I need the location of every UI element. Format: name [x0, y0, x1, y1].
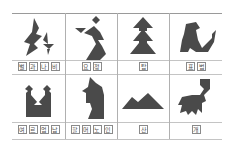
label-syllable: 르 — [29, 125, 38, 134]
label-syllable: 나 — [40, 62, 49, 71]
tangram-dog-icon — [170, 75, 222, 122]
label-syllable: 표 — [186, 62, 195, 71]
label-syllable: 남 — [51, 125, 60, 134]
label-syllable: 탑 — [139, 62, 148, 71]
label-syllable: 요 — [82, 62, 91, 71]
label-syllable: 인 — [104, 125, 113, 134]
puzzle-leopard — [170, 14, 222, 60]
label-syllable: 여 — [18, 125, 27, 134]
puzzle-old-person — [66, 75, 117, 122]
label-leopard: 표 범 — [170, 62, 222, 71]
label-old-person: 할 머 노 인 — [66, 125, 117, 134]
puzzle-mountain — [118, 75, 169, 122]
label-syllable: 범 — [197, 62, 206, 71]
label-syllable: 할 — [71, 125, 80, 134]
label-mountain: 산 — [118, 125, 169, 134]
label-syllable: 과 — [29, 62, 38, 71]
puzzle-castle — [12, 75, 65, 122]
tangram-old-person-icon — [66, 75, 117, 122]
label-syllable: 노 — [93, 125, 102, 134]
puzzle-dog — [170, 75, 222, 122]
label-syllable: 개 — [192, 125, 201, 134]
label-syllable: 산 — [139, 125, 148, 134]
label-syllable: 정 — [93, 62, 102, 71]
tangram-bee-butterfly-icon — [12, 14, 65, 60]
tangram-worksheet: 벌 과 나 비 요 정 탑 — [0, 0, 228, 146]
label-syllable: 벌 — [18, 62, 27, 71]
bottom-rule — [12, 139, 222, 140]
tangram-castle-icon — [12, 75, 65, 122]
label-castle: 여 르 엄 남 — [12, 125, 65, 134]
puzzle-bee-butterfly — [12, 14, 65, 60]
label-bee-butterfly: 벌 과 나 비 — [12, 62, 65, 71]
label-syllable: 머 — [82, 125, 91, 134]
tangram-mountain-icon — [118, 75, 169, 122]
tangram-tower-icon — [118, 14, 169, 60]
label-fairy: 요 정 — [66, 62, 117, 71]
tangram-leopard-icon — [170, 14, 222, 60]
puzzle-tower — [118, 14, 169, 60]
label-syllable: 엄 — [40, 125, 49, 134]
label-tower: 탑 — [118, 62, 169, 71]
puzzle-fairy — [66, 14, 117, 60]
label-dog: 개 — [170, 125, 222, 134]
tangram-fairy-icon — [66, 14, 117, 60]
label-syllable: 비 — [51, 62, 60, 71]
